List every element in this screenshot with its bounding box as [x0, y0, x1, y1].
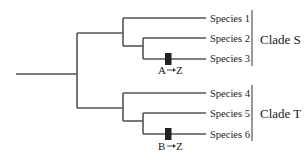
species-label: Species 2	[210, 33, 250, 44]
clade-s-label: Clade S	[260, 32, 301, 47]
species-label: Species 3	[210, 53, 250, 64]
species-label: Species 5	[210, 108, 250, 119]
mutation-marker-b	[165, 128, 172, 140]
species-label: Species 1	[210, 13, 250, 24]
mutation-to-z-b: Z	[176, 140, 183, 152]
mutation-from-b: B	[158, 140, 165, 152]
mutation-from-a: A	[158, 64, 166, 76]
species-label: Species 6	[210, 129, 250, 140]
mutation-marker-a	[165, 53, 172, 65]
phylogenetic-tree: A Z Species 1 Species 2 Species 3 Clade …	[0, 0, 308, 162]
mutation-to-z-a: Z	[176, 64, 183, 76]
species-label: Species 4	[210, 88, 251, 99]
clade-t-label: Clade T	[260, 106, 301, 121]
